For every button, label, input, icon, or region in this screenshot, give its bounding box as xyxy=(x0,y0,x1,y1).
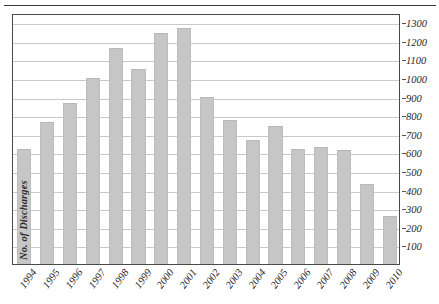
top-divider-rule xyxy=(4,5,436,6)
y-axis-title: No. of Discharges xyxy=(18,180,29,260)
y-axis-tick-label: 1200 xyxy=(406,36,427,47)
plot-area: No. of Discharges xyxy=(12,14,400,265)
y-axis-tick-label: 800 xyxy=(406,111,422,122)
x-axis-tick-label: 1997 xyxy=(86,267,107,290)
x-axis-tick-labels: 1994199519961997199819992000200120022003… xyxy=(12,265,400,304)
y-axis-tick-label: 600 xyxy=(406,148,422,159)
bar xyxy=(337,150,351,264)
x-axis-tick-label: 1998 xyxy=(109,267,130,290)
y-axis-tick-label: 300 xyxy=(406,204,422,215)
y-axis-tick-label: 400 xyxy=(406,185,422,196)
bar xyxy=(200,97,214,264)
bar xyxy=(223,120,237,264)
bar xyxy=(63,103,77,264)
x-axis-tick-label: 1999 xyxy=(132,267,153,290)
y-axis-tick-labels: 1300120011001000900800700600500400300200… xyxy=(402,14,439,265)
x-axis-tick-label: 2008 xyxy=(337,267,358,290)
bar xyxy=(383,216,397,264)
y-axis-tick-label: 500 xyxy=(406,167,422,178)
x-axis-tick-label: 2003 xyxy=(223,267,244,290)
x-axis-tick-label: 2009 xyxy=(360,267,381,290)
x-axis-tick-label: 2002 xyxy=(200,267,221,290)
bar xyxy=(246,140,260,264)
x-axis-tick-label: 2006 xyxy=(292,267,313,290)
y-axis-tick-label: 700 xyxy=(406,129,422,140)
x-axis-tick-label: 1995 xyxy=(41,267,62,290)
bar xyxy=(109,48,123,264)
x-axis-tick-label: 2005 xyxy=(269,267,290,290)
bar xyxy=(177,28,191,264)
x-axis-tick-label: 1994 xyxy=(18,267,39,290)
y-axis-tick-label: 200 xyxy=(406,222,422,233)
x-axis-tick-label: 2010 xyxy=(383,267,404,290)
y-axis-tick-label: 900 xyxy=(406,92,422,103)
figure-container: No. of Discharges 1300120011001000900800… xyxy=(0,0,439,304)
bar xyxy=(154,33,168,264)
x-axis-tick-label: 2000 xyxy=(155,267,176,290)
x-axis-tick-label: 2004 xyxy=(246,267,267,290)
bar xyxy=(86,78,100,264)
bar xyxy=(360,184,374,264)
y-axis-tick-label: 1300 xyxy=(406,18,427,29)
bar xyxy=(291,149,305,264)
bar xyxy=(40,122,54,264)
bar xyxy=(131,69,145,264)
x-axis-tick-label: 2007 xyxy=(314,267,335,290)
bar xyxy=(314,147,328,264)
bars-group xyxy=(13,15,399,264)
y-axis-tick-label: 1000 xyxy=(406,74,427,85)
x-axis-tick-label: 1996 xyxy=(63,267,84,290)
y-axis-tick-label: 100 xyxy=(406,241,422,252)
x-axis-tick-label: 2001 xyxy=(178,267,199,290)
bar xyxy=(268,126,282,264)
y-axis-tick-label: 1100 xyxy=(406,55,426,66)
